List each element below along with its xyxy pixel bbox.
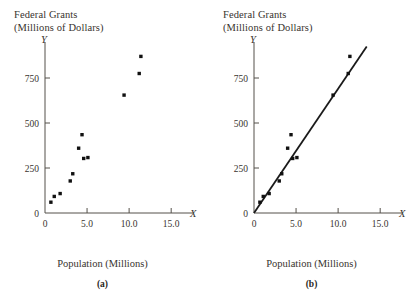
data-point <box>278 179 281 182</box>
regression-line <box>254 47 367 214</box>
data-point <box>49 201 52 204</box>
data-point <box>58 192 61 195</box>
y-tick-label: 0 <box>243 209 248 219</box>
x-tick-label: 10.0 <box>121 219 138 229</box>
x-tick-label: 5.0 <box>81 219 93 229</box>
data-point <box>139 55 142 58</box>
data-point <box>80 133 83 136</box>
x-tick-label: 0 <box>252 219 257 229</box>
panel-b-caption: (b) <box>209 279 410 289</box>
x-tick-label: 10.0 <box>330 219 347 229</box>
data-point <box>122 93 125 96</box>
data-point <box>280 172 283 175</box>
data-point <box>291 157 294 160</box>
y-tick-label: 500 <box>234 119 249 129</box>
scatter-plot-figure: Federal Grants(Millions of Dollars) Y X … <box>0 0 410 301</box>
panel-b-plot-area: 05.010.015.00250500750 <box>205 0 410 301</box>
y-tick-label: 750 <box>25 74 40 84</box>
data-point <box>289 133 292 136</box>
x-tick-label: 5.0 <box>290 219 302 229</box>
data-point <box>331 93 334 96</box>
data-point <box>267 192 270 195</box>
data-point <box>69 179 72 182</box>
x-tick-label: 15.0 <box>372 219 389 229</box>
panel-a-plot-area: 05.010.015.00250500750 <box>0 0 205 301</box>
data-point <box>295 156 298 159</box>
data-point <box>86 156 89 159</box>
y-tick-label: 750 <box>234 74 249 84</box>
panel-b: Federal Grants(Millions of Dollars) Y X … <box>205 0 410 301</box>
y-tick-label: 250 <box>234 164 249 174</box>
data-point <box>286 147 289 150</box>
panel-b-x-axis-caption: Population (Millions) <box>209 258 410 269</box>
x-tick-label: 0 <box>43 219 48 229</box>
y-tick-label: 500 <box>25 119 40 129</box>
panel-a-x-axis-caption: Population (Millions) <box>0 258 205 269</box>
data-point <box>258 201 261 204</box>
data-point <box>53 195 56 198</box>
data-point <box>71 172 74 175</box>
data-point <box>262 195 265 198</box>
y-tick-label: 250 <box>25 164 40 174</box>
panel-a: Federal Grants(Millions of Dollars) Y X … <box>0 0 205 301</box>
y-tick-label: 0 <box>34 209 39 219</box>
x-tick-label: 15.0 <box>163 219 180 229</box>
panel-a-caption: (a) <box>0 279 205 289</box>
data-point <box>347 72 350 75</box>
data-point <box>82 157 85 160</box>
data-point <box>77 147 80 150</box>
data-point <box>138 72 141 75</box>
data-point <box>348 55 351 58</box>
